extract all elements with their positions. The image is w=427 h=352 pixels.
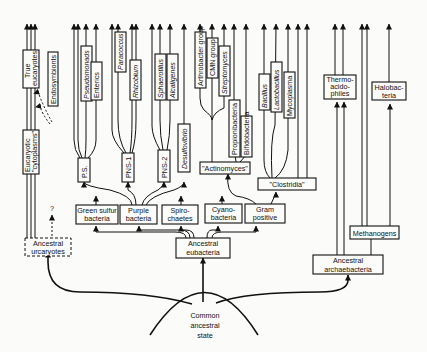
root-line-2: ancestral	[190, 321, 220, 330]
gram-to-actinomyces	[228, 174, 256, 204]
true-eucaryotes-line-2: eucaryotes	[30, 50, 39, 86]
cyanobacteria-line-2: bacteria	[211, 213, 237, 222]
branch-to-urcaryotes	[48, 252, 192, 304]
root-line-3: state	[197, 331, 213, 340]
gram-to-clostridia	[271, 192, 276, 204]
alcaligenes-label: Alcaligenes	[169, 62, 177, 99]
ps-lineages: Pseudomonads Enterics	[74, 24, 102, 158]
phylogenetic-tree: Common ancestral state Eucaryotic "cytop…	[0, 0, 427, 352]
clostridia-lineages: Bacillus Lactobacillus Mycoplasma	[259, 24, 307, 178]
bacillus-label: Bacillus	[261, 83, 268, 108]
paracoccus-label: Paracoccus	[117, 33, 124, 70]
pseudomonads-label: Pseudomonads	[83, 50, 90, 99]
eubacteria-branches	[96, 226, 256, 238]
propionibacteria-label: Propionibacteria	[230, 103, 239, 155]
arthrobacter-group-label: Arthrobacter group	[196, 26, 205, 86]
pns1-label: PNS-1	[124, 157, 133, 178]
eubacteria-line-2: eubacteria	[186, 248, 220, 257]
archaebacteria-line-2: archaebacteria	[324, 265, 372, 274]
streptomyces-label: Streptomyces	[221, 51, 229, 94]
common-ancestral-state: Common ancestral state	[150, 293, 258, 341]
enterics-label: Enterics	[92, 72, 101, 98]
lactobacillus-label: Lactobacillus	[273, 69, 280, 110]
root-line-1: Common	[190, 311, 219, 320]
ps-label: P.S.	[80, 165, 89, 178]
sphaerotilus-label: Sphaerotilus	[157, 59, 165, 98]
actinomyces-label: "Actinomyces"	[202, 164, 248, 173]
urcaryotes-line-2: urcaryotes	[31, 247, 65, 256]
endosymbionts-label: Endosymbionts	[49, 54, 58, 104]
methanogens-label: Methanogens	[353, 229, 397, 238]
eubacteria-line-1: Ancestral	[188, 239, 218, 248]
thermoacidophiles-line-3: philes	[331, 89, 350, 98]
question-mark: ?	[50, 204, 54, 213]
branch-to-archaebacteria	[216, 275, 348, 303]
eukaryote-lineage: Eucaryotic "cytoplasms" True eucaryotes …	[23, 24, 58, 238]
gram-positive-line-2: positive	[253, 213, 277, 222]
pns2-label: PNS-2	[160, 157, 169, 178]
halobacteria-line-2: teria	[382, 91, 396, 100]
pns2-lineages: Sphaerotilus Alcaligenes	[152, 24, 178, 150]
clostridia-label: "Clostridia"	[269, 180, 305, 189]
purple-line-2: bacteria	[126, 214, 152, 223]
desulfovibrio-label: Desulfovibrio	[181, 128, 188, 169]
archaebacteria-lineages	[335, 24, 390, 255]
bifidobacteria-label: Bifidobacteria	[242, 111, 251, 155]
archaebacteria-line-1: Ancestral	[333, 256, 363, 265]
cytoplasm-line-2: "cytoplasms"	[30, 131, 39, 172]
spirochaetes-line-2: chaetes	[167, 214, 193, 223]
purple-branches	[84, 182, 184, 205]
mycoplasma-label: Mycoplasma	[285, 76, 294, 116]
cmn-group-label: CMN group	[208, 39, 217, 76]
actinomyces-lineages: Arthrobacter group CMN group Streptomyce…	[195, 24, 252, 162]
green-sulfur-line-2: bacteria	[84, 214, 110, 223]
pns1-lineages: Paracoccus Rhizobium	[112, 24, 141, 153]
rhizobium-label: Rhizobium	[132, 65, 139, 98]
